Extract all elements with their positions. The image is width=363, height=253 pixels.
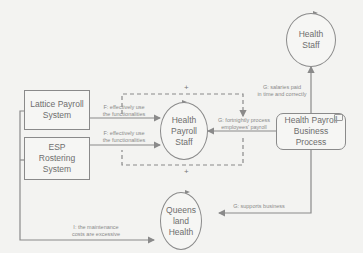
node-lattice-payroll-system: Lattice Payroll System xyxy=(24,90,90,130)
polarity-sign-top: + xyxy=(184,84,189,92)
node-label: Queens xyxy=(166,205,196,216)
polarity-sign-bottom: + xyxy=(184,168,189,176)
edge-label-text: the functionalities xyxy=(94,137,154,144)
node-label: Staff xyxy=(299,40,324,51)
edge-label-esp-hps: F: effectively use the functionalities xyxy=(94,130,154,143)
node-label: Health xyxy=(166,227,196,238)
node-label: Health Payroll xyxy=(285,115,338,126)
edge-label-text: employees' payroll xyxy=(212,124,276,131)
node-label: Health xyxy=(171,115,197,126)
edge-label-text: I: the maintenance xyxy=(66,224,126,231)
edge-label-text: the functionalities xyxy=(94,111,154,118)
node-label: Staff xyxy=(171,137,197,148)
node-esp-rostering-system: ESP Rostering System xyxy=(24,137,90,180)
edge-label-systems-qh: I: the maintenance costs are excessive xyxy=(66,224,126,237)
node-label: Lattice Payroll xyxy=(30,99,83,110)
edge-label-text: in time and correctly xyxy=(252,91,312,98)
node-label: ESP xyxy=(39,142,75,153)
node-label: System xyxy=(30,110,83,121)
edge-label-text: G: fortnightly process xyxy=(212,117,276,124)
node-label: Process xyxy=(285,137,338,148)
edge-label-text: costs are excessive xyxy=(66,231,126,238)
node-label: Business xyxy=(285,126,338,137)
node-label: Health xyxy=(299,29,324,40)
node-label: System xyxy=(39,164,75,175)
node-label: Payroll xyxy=(171,126,197,137)
node-label: Rostering xyxy=(39,153,75,164)
business-process-icon xyxy=(334,114,343,121)
edge-label-hpbp-hps: G: fortnightly process employees' payrol… xyxy=(212,117,276,130)
edge-label-text: G: supports business xyxy=(226,203,292,210)
node-health-staff: Health Staff xyxy=(286,13,336,67)
edge-label-lattice-hps: F: effectively use the functionalities xyxy=(94,104,154,117)
node-label: land xyxy=(166,216,196,227)
node-queensland-health: Queens land Health xyxy=(160,192,202,250)
edge-label-hpbp-hs: G: salaries paid in time and correctly xyxy=(252,84,312,97)
node-health-payroll-staff: Health Payroll Staff xyxy=(160,102,208,160)
edge-label-hpbp-qh: G: supports business xyxy=(226,203,292,210)
